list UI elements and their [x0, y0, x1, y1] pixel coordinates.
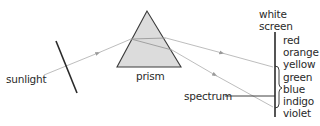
prism-label: prism [136, 70, 165, 82]
sunlight-label: sunlight [6, 73, 46, 85]
color-label-orange: orange [283, 46, 319, 58]
slit [56, 41, 77, 93]
color-label-indigo: indigo [283, 95, 314, 107]
color-label-green: green [283, 71, 312, 83]
red-ray [166, 38, 222, 53]
color-label-yellow: yellow [283, 58, 315, 70]
color-label-violet: violet [283, 107, 311, 119]
white-screen-label-line2: screen [259, 20, 293, 32]
red-ray-continued [222, 53, 273, 67]
color-label-red: red [283, 34, 300, 46]
spectrum-label: spectrum [184, 90, 232, 102]
color-label-blue: blue [283, 83, 305, 95]
sunlight-ray [44, 53, 98, 75]
spectrum-brace [275, 66, 282, 108]
white-screen-label-line1: white [259, 8, 287, 20]
